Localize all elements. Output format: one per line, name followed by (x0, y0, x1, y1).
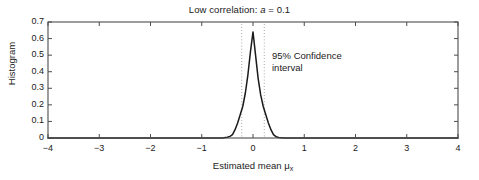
y-tick-label-0: 0 (2, 132, 44, 142)
annotation-line-2: interval (272, 62, 342, 74)
x-tick-label-0: −4 (28, 143, 68, 153)
x-axis-label-text: Estimated mean (213, 160, 284, 171)
confidence-interval-annotation: 95% Confidence interval (272, 50, 342, 74)
plot-background (48, 22, 458, 138)
x-axis-label-subscript: x (290, 165, 294, 172)
y-tick-label-1: 0.1 (2, 115, 44, 125)
x-tick-label-1: −3 (79, 143, 119, 153)
y-tick-label-2: 0.2 (2, 99, 44, 109)
x-tick-label-4: 0 (233, 143, 273, 153)
chart-figure: Low correlation: a = 0.1 00.10.20.30.40.… (0, 0, 479, 180)
x-tick-label-3: −1 (182, 143, 222, 153)
x-tick-label-8: 4 (438, 143, 478, 153)
y-tick-label-7: 0.7 (2, 16, 44, 26)
annotation-line-1: 95% Confidence (272, 50, 342, 62)
y-axis-label: Histogram (6, 29, 17, 99)
x-axis-label: Estimated mean μx (48, 160, 458, 172)
x-tick-label-2: −2 (131, 143, 171, 153)
x-tick-label-6: 2 (336, 143, 376, 153)
x-tick-label-5: 1 (284, 143, 324, 153)
plot-area (0, 0, 479, 180)
x-tick-label-7: 3 (387, 143, 427, 153)
